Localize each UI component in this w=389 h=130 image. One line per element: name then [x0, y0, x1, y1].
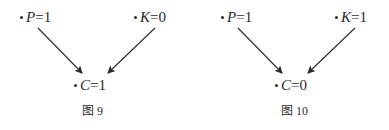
arrow-k-to-c	[308, 28, 355, 73]
dot-icon	[74, 84, 77, 87]
node-k: K=0	[134, 9, 166, 25]
arrow-k-to-c	[108, 28, 155, 73]
node-c: C=0	[275, 77, 307, 93]
arrow-p-to-c	[238, 28, 282, 73]
node-p: P=1	[20, 9, 51, 25]
dot-icon	[134, 16, 137, 19]
dot-icon	[335, 16, 338, 19]
node-c: C=1	[74, 77, 106, 93]
node-p: P=1	[221, 9, 252, 25]
figure-caption: 图 9	[82, 101, 103, 119]
dot-icon	[20, 16, 23, 19]
dot-icon	[275, 84, 278, 87]
arrow-p-to-c	[38, 28, 82, 73]
dot-icon	[221, 16, 224, 19]
figure-10: P=1 K=1 C=0 图 10	[195, 0, 389, 130]
figure-caption: 图 10	[281, 101, 308, 119]
figure-9: P=1 K=0 C=1 图 9	[0, 0, 195, 130]
node-k: K=1	[335, 9, 367, 25]
